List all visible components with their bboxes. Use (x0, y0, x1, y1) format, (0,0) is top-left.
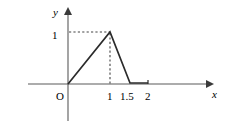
function-curve (68, 32, 148, 84)
x-tick-label-1-5: 1.5 (120, 86, 134, 104)
x-tick-label-2: 2 (145, 86, 151, 104)
function-graph-figure: y x 1 O 1 1.5 2 (0, 0, 226, 129)
y-axis-arrowhead (64, 7, 72, 15)
y-tick-label-1: 1 (52, 25, 58, 43)
x-tick-label-1: 1 (107, 86, 113, 104)
x-axis-label: x (212, 84, 217, 102)
y-axis-label: y (53, 2, 58, 20)
graph-canvas (0, 0, 226, 129)
origin-label: O (56, 86, 64, 104)
